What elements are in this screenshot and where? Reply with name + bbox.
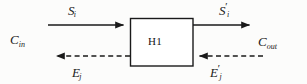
label-cold-out-subscript: out — [267, 42, 277, 51]
block-label-h1: H1 — [148, 35, 162, 47]
label-stream-in: Si — [68, 1, 76, 19]
label-stream-out: S′i — [219, 1, 229, 19]
label-cold-out: Cout — [258, 33, 277, 51]
label-stream-out-subscript: i — [227, 10, 229, 19]
label-stream-in-subscript: i — [74, 10, 76, 19]
label-cold-out-base: C — [258, 34, 267, 49]
label-energy-in-subscript: j — [220, 72, 222, 81]
label-energy-in-prime: ′ — [217, 62, 219, 74]
label-cold-in: Cin — [10, 31, 25, 49]
label-cold-in-subscript: in — [19, 40, 25, 49]
block-flow-diagram: H1 Si S′i Cin Cout Ej E′j — [0, 0, 307, 84]
label-energy-in: E′j — [210, 63, 222, 81]
label-energy-out-subscript: j — [79, 72, 81, 81]
label-cold-in-base: C — [10, 32, 19, 47]
label-energy-out: Ej — [72, 63, 81, 81]
